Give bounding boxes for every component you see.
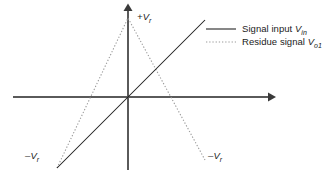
legend-item-signal-input: Signal input Vin	[206, 23, 324, 35]
label-negative-vref-left-subscript: r	[37, 156, 39, 163]
legend-label-signal-input-subscript: in	[301, 29, 307, 36]
legend-label-residue-signal: Residue signal Vo1	[242, 36, 322, 49]
y-axis-arrowhead	[124, 4, 133, 12]
legend-item-residue-signal: Residue signal Vo1	[206, 36, 324, 48]
x-axis-arrowhead	[268, 92, 276, 101]
label-negative-vref-right-subscript: r	[220, 156, 222, 163]
residue-transfer-chart: +Vr –Vr –Vr Signal input Vin Residue sig…	[0, 0, 325, 178]
legend-swatch-dotted-line	[206, 41, 236, 43]
chart-legend: Signal input Vin Residue signal Vo1	[206, 23, 324, 49]
label-positive-vref: +Vr	[137, 11, 152, 24]
signal-input-line	[57, 20, 205, 168]
label-positive-vref-subscript: r	[149, 17, 151, 24]
label-negative-vref-left: –Vr	[25, 150, 39, 163]
legend-label-signal-input: Signal input Vin	[242, 23, 307, 36]
legend-label-residue-signal-subscript: o1	[314, 42, 322, 49]
label-negative-vref-right: –Vr	[208, 150, 222, 163]
legend-swatch-solid-line	[206, 28, 236, 30]
legend-label-residue-signal-text: Residue signal	[242, 36, 308, 47]
legend-label-signal-input-text: Signal input	[242, 23, 295, 34]
